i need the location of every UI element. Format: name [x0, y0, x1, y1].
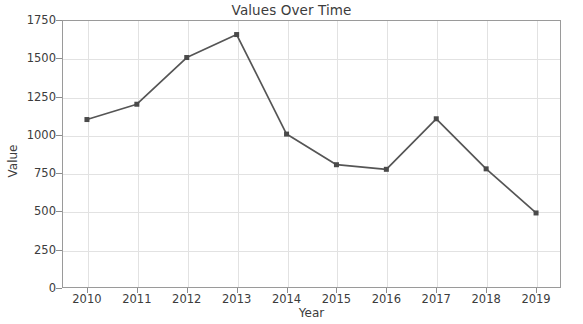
line-series-layer	[62, 20, 561, 288]
y-tick-mark	[56, 97, 62, 98]
data-point-marker	[284, 132, 289, 137]
data-point-marker	[134, 102, 139, 107]
y-tick-label: 1000	[27, 128, 56, 142]
y-tick-mark	[56, 288, 62, 289]
y-tick-mark	[56, 250, 62, 251]
y-axis-label: Value	[6, 111, 20, 211]
data-point-marker	[234, 32, 239, 37]
data-point-marker	[484, 166, 489, 171]
data-line	[87, 35, 536, 213]
data-point-marker	[334, 162, 339, 167]
x-tick-mark	[436, 288, 437, 293]
x-tick-mark	[486, 288, 487, 293]
x-tick-mark	[386, 288, 387, 293]
x-tick-mark	[536, 288, 537, 293]
data-point-marker	[434, 116, 439, 121]
x-tick-label: 2019	[521, 292, 550, 306]
chart-figure: Values Over Time Year Value 025050075010…	[0, 0, 583, 324]
x-tick-mark	[137, 288, 138, 293]
y-tick-label: 0	[49, 281, 56, 295]
x-tick-mark	[187, 288, 188, 293]
x-tick-label: 2012	[172, 292, 201, 306]
y-tick-label: 750	[34, 166, 56, 180]
y-tick-label: 500	[34, 204, 56, 218]
x-tick-mark	[87, 288, 88, 293]
data-point-marker	[384, 167, 389, 172]
x-tick-label: 2011	[122, 292, 151, 306]
x-tick-label: 2018	[472, 292, 501, 306]
y-tick-label: 1250	[27, 90, 56, 104]
y-tick-label: 1500	[27, 51, 56, 65]
chart-title: Values Over Time	[0, 2, 583, 18]
x-tick-mark	[287, 288, 288, 293]
x-tick-mark	[237, 288, 238, 293]
x-tick-label: 2014	[272, 292, 301, 306]
x-axis-label: Year	[62, 306, 561, 320]
x-tick-label: 2015	[322, 292, 351, 306]
x-tick-label: 2013	[222, 292, 251, 306]
x-tick-label: 2017	[422, 292, 451, 306]
data-point-marker	[84, 117, 89, 122]
y-tick-mark	[56, 173, 62, 174]
y-tick-mark	[56, 211, 62, 212]
x-tick-mark	[336, 288, 337, 293]
data-point-marker	[184, 55, 189, 60]
y-tick-mark	[56, 58, 62, 59]
y-tick-label: 1750	[27, 13, 56, 27]
x-tick-label: 2016	[372, 292, 401, 306]
y-tick-mark	[56, 135, 62, 136]
y-tick-mark	[56, 20, 62, 21]
y-tick-label: 250	[34, 243, 56, 257]
x-tick-label: 2010	[72, 292, 101, 306]
data-point-marker	[534, 210, 539, 215]
